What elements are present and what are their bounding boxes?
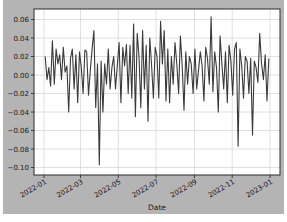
y-tick-label: −0.06: [8, 127, 30, 135]
y-tick-label: −0.10: [8, 164, 29, 172]
x-tick-label: 2023-01: [245, 178, 274, 200]
x-tick-label: 2022-09: [169, 178, 198, 200]
x-axis: 2022-012022-032022-052022-072022-092022-…: [19, 175, 274, 199]
y-tick-label: 0.02: [13, 53, 29, 61]
x-tick-label: 2022-07: [131, 178, 160, 200]
y-tick-label: −0.04: [8, 109, 30, 117]
y-tick-label: −0.08: [8, 146, 29, 154]
y-tick-label: 0.04: [13, 35, 29, 43]
line-chart: 0.060.040.020.00−0.02−0.04−0.06−0.08−0.1…: [0, 0, 287, 222]
y-tick-label: −0.02: [8, 90, 29, 98]
x-tick-label: 2022-11: [207, 178, 236, 200]
x-tick-label: 2022-01: [19, 178, 48, 200]
y-tick-label: 0.06: [13, 16, 29, 24]
y-tick-label: 0.00: [13, 72, 29, 80]
x-tick-label: 2022-05: [93, 178, 122, 200]
x-tick-label: 2022-03: [55, 178, 84, 200]
y-axis: 0.060.040.020.00−0.02−0.04−0.06−0.08−0.1…: [8, 16, 34, 172]
x-axis-label: Date: [148, 203, 166, 212]
